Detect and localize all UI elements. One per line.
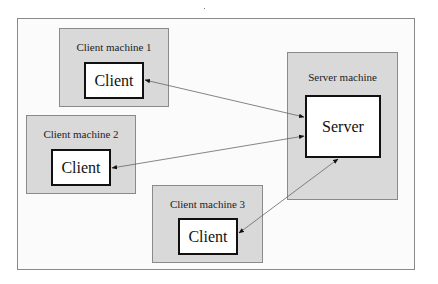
arrow-client1-server (145, 80, 304, 117)
arrow-client3-server (239, 159, 338, 233)
arrow-client2-server (112, 136, 304, 168)
connection-arrows (0, 0, 438, 284)
